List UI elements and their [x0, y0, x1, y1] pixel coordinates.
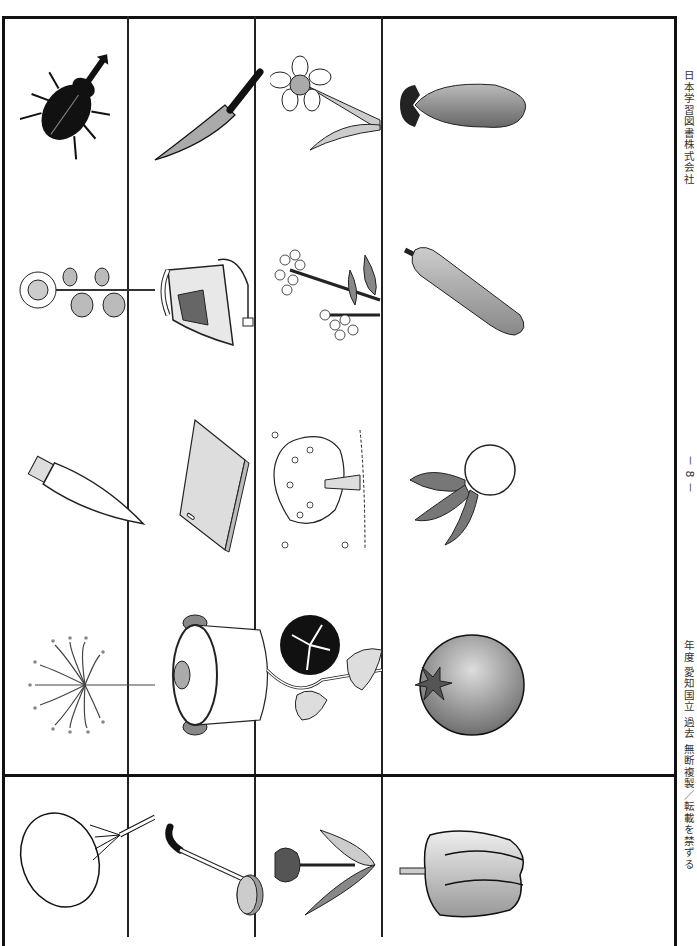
- page-number: － 8 －: [681, 455, 697, 494]
- kitchen-knife-icon: [145, 60, 265, 170]
- cherry-tree-icon: [265, 420, 390, 560]
- rapeseed-flower-icon: [265, 235, 385, 345]
- daikon-radish-icon: [15, 445, 155, 545]
- sunflower-icon: [10, 260, 160, 340]
- ladle-icon: [150, 815, 270, 925]
- tulip-icon: [265, 815, 390, 925]
- cutting-board-icon: [175, 415, 255, 555]
- turnip-icon: [400, 435, 530, 555]
- paper-fan-icon: [15, 805, 155, 920]
- cucumber-icon: [395, 235, 530, 345]
- morning-glory-icon: [262, 605, 387, 740]
- tomato-icon: [400, 625, 530, 745]
- eggplant-icon: [395, 65, 530, 150]
- iron-icon: [148, 240, 268, 350]
- sparkler-icon: [15, 630, 155, 740]
- pot-icon: [150, 605, 270, 745]
- publisher-text: 日本学習図書株式会社: [681, 70, 696, 185]
- rhinoceros-beetle-icon: [20, 40, 120, 160]
- copyright-notice: 年度 愛知国立 過去 無断複製／転載を禁ずる: [681, 640, 696, 870]
- daffodil-icon: [270, 55, 385, 165]
- answer-row-divider: [2, 774, 677, 777]
- bell-pepper-icon: [395, 820, 530, 925]
